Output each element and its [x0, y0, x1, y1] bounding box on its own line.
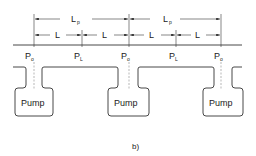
period-subscript-1: p [77, 19, 80, 25]
segment-label-4: L [195, 30, 200, 40]
pump-label-2: Pump [114, 98, 138, 108]
pressure-subscript-5: o [220, 56, 223, 62]
segment-label-3: L [149, 30, 154, 40]
pressure-subscript-1: o [31, 56, 34, 62]
period-label-2: L [163, 14, 168, 24]
pressure-subscript-3: o [127, 56, 130, 62]
segment-label-1: L [55, 30, 60, 40]
pressure-labels: P o P L P o P L P o [25, 51, 223, 62]
period-label-1: L [71, 14, 76, 24]
pressure-subscript-4: L [175, 56, 178, 62]
pipeline-with-pumps [13, 67, 243, 116]
segment-dimension-row: L L L L [35, 30, 220, 40]
period-subscript-2: p [169, 19, 172, 25]
segment-label-2: L [102, 30, 107, 40]
period-dimension-row: L p L p [35, 14, 220, 25]
pump-label-3: Pump [209, 98, 233, 108]
pressure-subscript-2: L [80, 56, 83, 62]
figure-caption: b) [132, 142, 139, 151]
pump-label-1: Pump [21, 98, 45, 108]
pipeline-diagram: L p L p L L L L P o P L P o P L P o [0, 0, 256, 156]
